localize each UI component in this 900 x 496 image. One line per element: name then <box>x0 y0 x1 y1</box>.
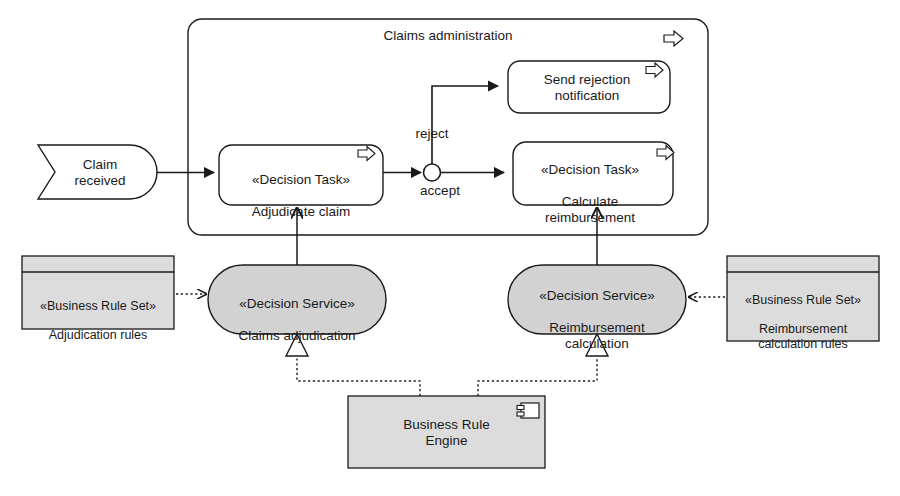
task-calculate-reimbursement <box>513 142 674 205</box>
diagram-canvas: Claims administration Claim received «De… <box>0 0 900 496</box>
decision-service-reimbursement-calculation <box>508 265 686 334</box>
diagram-shapes-layer <box>0 0 900 496</box>
realization-engine-to-reimbursement-calculation <box>478 334 608 396</box>
business-rule-set-adjudication-rules <box>22 256 174 329</box>
realization-engine-to-claims-adjudication <box>286 334 420 396</box>
business-rule-set-reimbursement-calculation-rules <box>727 256 879 341</box>
task-send-rejection-notification <box>508 61 670 113</box>
decision-service-claims-adjudication <box>208 265 386 334</box>
start-event-claim-received <box>38 145 157 199</box>
gateway-decision-circle <box>424 164 441 181</box>
component-business-rule-engine <box>348 396 545 468</box>
task-adjudicate-claim <box>219 145 383 205</box>
